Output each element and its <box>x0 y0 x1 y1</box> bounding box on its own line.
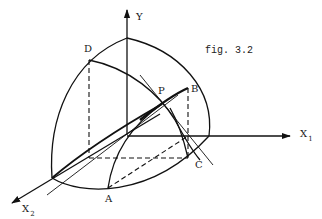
tangent-line-2 <box>47 95 178 195</box>
arc-d-p-c <box>89 60 200 160</box>
label-point-b: B <box>191 83 198 94</box>
spherical-octant-diagram: Y X1 X2 D P B C A fig. 3.2 <box>0 0 322 219</box>
outer-arc-bottom <box>52 136 209 189</box>
label-x1-axis: X1 <box>300 128 313 143</box>
sphere-outline <box>52 38 210 189</box>
label-point-a: A <box>104 193 113 204</box>
arc-a-p <box>108 104 162 188</box>
label-point-p: P <box>158 85 165 96</box>
axes <box>12 10 290 203</box>
label-point-c: C <box>195 159 203 170</box>
dashed-a-c <box>108 136 188 188</box>
label-y-axis: Y <box>135 11 143 22</box>
inner-arcs <box>52 60 200 188</box>
label-point-d: D <box>84 43 92 54</box>
figure-caption: fig. 3.2 <box>205 45 253 56</box>
label-x2-axis: X2 <box>22 203 35 218</box>
